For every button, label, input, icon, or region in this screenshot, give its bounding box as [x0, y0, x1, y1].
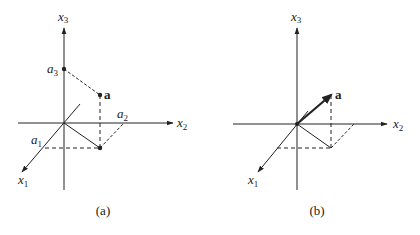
label-point-a: a: [104, 87, 111, 102]
label-x2: x2: [392, 116, 403, 133]
panel-a: x3 x2 x1 a3 a2 a1 a (a): [17, 9, 187, 218]
line-origin-to-foot: [297, 124, 331, 148]
point-a: [98, 93, 102, 97]
label-x3: x3: [290, 9, 302, 25]
origin-point: [295, 122, 299, 126]
caption-a: (a): [96, 203, 110, 218]
line-origin-to-foot: [64, 123, 100, 148]
label-a3: a3: [47, 61, 59, 78]
dash-a3-to-a: [64, 69, 100, 95]
panel-b: x3 x2 x1 a (b): [233, 9, 403, 218]
dash-foot-to-a2: [100, 123, 124, 148]
label-x2: x2: [176, 115, 187, 132]
label-x3: x3: [57, 9, 69, 25]
label-a2: a2: [117, 106, 128, 123]
label-x1: x1: [17, 172, 28, 189]
vector-component-diagram: x3 x2 x1 a3 a2 a1 a (a) x3 x2 x1 a (b): [0, 0, 420, 235]
label-point-a: a: [335, 87, 342, 102]
dash-foot-to-x2: [331, 124, 354, 148]
point-foot: [98, 146, 102, 150]
point-a3: [62, 67, 66, 71]
label-a1: a1: [31, 132, 42, 149]
vector-a: [297, 95, 331, 124]
caption-b: (b): [309, 203, 324, 218]
label-x1: x1: [247, 172, 258, 189]
